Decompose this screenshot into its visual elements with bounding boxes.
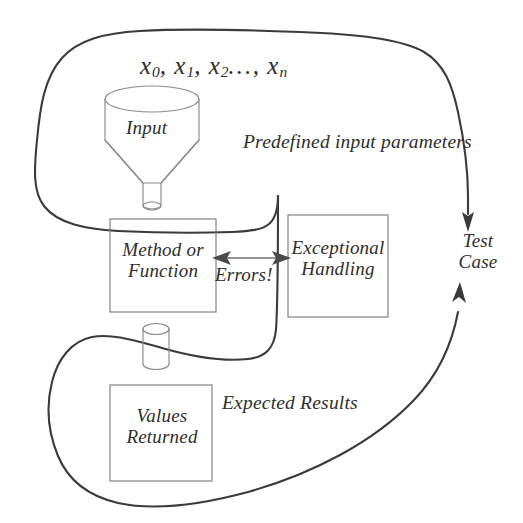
formula-xn: xn — [267, 52, 287, 79]
test-case-label: Test Case — [456, 230, 500, 273]
formula-x0: x0 — [140, 52, 160, 79]
funnel-input-label: Input — [126, 117, 167, 138]
exceptional-label-line1: Exceptional — [290, 237, 386, 258]
test-case-line2: Case — [456, 251, 500, 272]
values-returned-label: Values Returned — [118, 405, 206, 448]
formula-x2: x2 — [209, 52, 229, 79]
method-or-function-label: Method or Function — [114, 239, 212, 282]
formula-ellipsis: … — [229, 52, 253, 79]
formula-x1: x1 — [174, 52, 194, 79]
errors-double-arrow — [212, 251, 291, 265]
method-label-line2: Function — [114, 260, 212, 281]
predefined-input-parameters-label: Predefined input parameters — [243, 131, 472, 153]
method-label-line1: Method or — [114, 239, 212, 260]
input-region-tail — [232, 196, 278, 232]
output-to-testcase-arrowhead — [452, 282, 466, 303]
test-case-diagram: x0, x1, x2…, xn Input Predefined input p… — [0, 0, 523, 523]
test-case-line1: Test — [456, 230, 500, 251]
formula-sep-3: , — [253, 52, 268, 79]
expected-results-label: Expected Results — [222, 392, 358, 414]
formula-sep-2: , — [194, 52, 209, 79]
formula-sep-1: , — [160, 52, 175, 79]
errors-label: Errors! — [215, 264, 273, 285]
values-label-line2: Returned — [118, 426, 206, 447]
input-parameters-formula: x0, x1, x2…, xn — [140, 52, 287, 81]
values-label-line1: Values — [118, 405, 206, 426]
input-funnel-icon — [105, 86, 199, 210]
exceptional-label-line2: Handling — [290, 258, 386, 279]
exceptional-handling-label: Exceptional Handling — [290, 237, 386, 280]
